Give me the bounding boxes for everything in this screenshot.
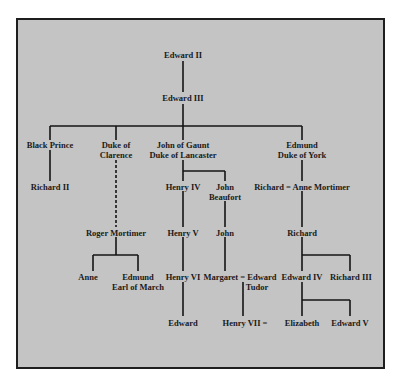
- node-clarence: Duke of Clarence: [100, 140, 132, 160]
- node-edmund-march: Edmund Earl of March: [112, 272, 164, 292]
- node-clarence-line1: Duke of: [100, 140, 132, 150]
- node-edmund-march-line2: Earl of March: [112, 282, 164, 292]
- node-edmund-york: Edmund Duke of York: [278, 140, 326, 160]
- node-john: John: [216, 228, 234, 238]
- node-edward: Edward: [168, 318, 197, 328]
- node-john-beaufort: John Beaufort: [209, 182, 241, 202]
- node-roger-mortimer: Roger Mortimer: [86, 228, 146, 238]
- node-john-beaufort-line1: John: [209, 182, 241, 192]
- node-henry5: Henry V: [167, 228, 198, 238]
- node-edward5: Edward V: [331, 318, 368, 328]
- node-henry6: Henry VI: [166, 272, 201, 282]
- node-henry7: Henry VII =: [223, 318, 268, 328]
- node-john-beaufort-line2: Beaufort: [209, 192, 241, 202]
- node-gaunt: John of Gaunt Duke of Lancaster: [149, 140, 216, 160]
- node-black-prince: Black Prince: [27, 140, 74, 150]
- node-richard: Richard: [287, 228, 317, 238]
- node-margaret-line1: Margaret = Edward: [203, 272, 276, 282]
- node-richard-anne-mortimer: Richard = Anne Mortimer: [254, 182, 350, 192]
- node-edward2: Edward II: [164, 50, 202, 60]
- node-richard2: Richard II: [31, 182, 70, 192]
- node-edmund-march-line1: Edmund: [112, 272, 164, 282]
- node-edmund-york-line2: Duke of York: [278, 150, 326, 160]
- node-gaunt-line1: John of Gaunt: [149, 140, 216, 150]
- node-margaret-edward-tudor: Margaret = Edward Tudor: [203, 272, 276, 292]
- node-henry4: Henry IV: [166, 182, 201, 192]
- node-richard3: Richard III: [330, 272, 372, 282]
- node-gaunt-line2: Duke of Lancaster: [149, 150, 216, 160]
- node-margaret-line2: Tudor: [203, 282, 276, 292]
- node-edward3: Edward III: [162, 93, 203, 103]
- node-anne: Anne: [78, 272, 97, 282]
- node-elizabeth: Elizabeth: [285, 318, 319, 328]
- node-edward4: Edward IV: [282, 272, 323, 282]
- node-edmund-york-line1: Edmund: [278, 140, 326, 150]
- node-clarence-line2: Clarence: [100, 150, 132, 160]
